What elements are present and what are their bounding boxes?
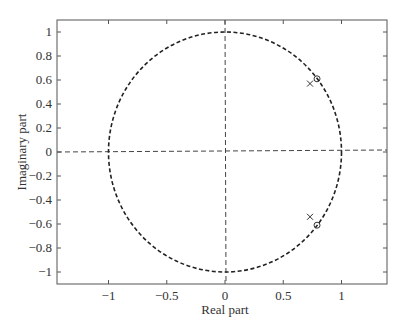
y-tick-label: 0.8: [36, 48, 52, 63]
y-tick-label: 1: [46, 24, 53, 39]
x-tick-label: 0: [222, 288, 229, 303]
x-axis-ticks: −1−0.500.51: [102, 20, 345, 303]
y-tick-label: −0.8: [28, 240, 52, 255]
y-tick-label: 0.4: [36, 96, 53, 111]
pole-marker: [307, 81, 313, 87]
y-tick-label: 0.2: [36, 120, 52, 135]
horizontal-zero-line: [57, 150, 387, 152]
x-axis-label: Real part: [201, 302, 249, 317]
y-tick-label: −0.2: [28, 168, 52, 183]
pole-zero-plot: −1−0.500.51 10.80.60.40.20−0.2−0.4−0.6−0…: [0, 0, 402, 324]
x-tick-label: 1: [338, 288, 345, 303]
y-tick-label: −1: [38, 264, 52, 279]
y-tick-label: −0.6: [28, 216, 52, 231]
x-tick-label: 0.5: [275, 288, 291, 303]
vertical-zero-line: [225, 20, 226, 284]
x-tick-label: −0.5: [155, 288, 179, 303]
x-tick-label: −1: [102, 288, 116, 303]
y-tick-label: −0.4: [28, 192, 52, 207]
pole-marker: [307, 214, 313, 220]
y-tick-label: 0.6: [36, 72, 53, 87]
y-axis-label: Imaginary part: [14, 113, 29, 190]
plot-area: [57, 20, 387, 284]
y-tick-label: 0: [46, 144, 53, 159]
